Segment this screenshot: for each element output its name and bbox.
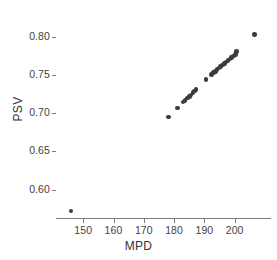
x-axis-title: MPD: [0, 239, 277, 253]
data-point: [204, 77, 209, 82]
x-tick: [174, 219, 175, 223]
x-tick: [235, 219, 236, 223]
data-point: [234, 49, 239, 54]
y-axis-title: PSV: [11, 79, 25, 139]
data-point: [175, 106, 180, 111]
y-tick-label: 0.80: [16, 30, 50, 42]
data-point: [252, 32, 257, 37]
x-tick: [204, 219, 205, 223]
x-axis-line: [56, 218, 271, 219]
data-point: [69, 209, 74, 214]
x-tick-label: 200: [215, 224, 255, 236]
scatter-chart-figure: 0.600.650.700.750.80 150160170180190200 …: [0, 0, 277, 260]
data-point: [194, 87, 199, 92]
y-tick-label: 0.60: [16, 183, 50, 195]
x-tick: [83, 219, 84, 223]
x-tick: [144, 219, 145, 223]
y-tick-label: 0.65: [16, 144, 50, 156]
data-point: [166, 115, 171, 120]
plot-area: [56, 20, 271, 218]
x-tick: [114, 219, 115, 223]
